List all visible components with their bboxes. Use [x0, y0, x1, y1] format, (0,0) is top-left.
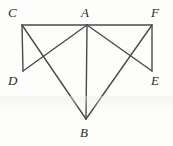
- segment-CD: [22, 25, 23, 71]
- vertex-label-A: A: [81, 6, 89, 19]
- geometry-figure: C A F D E B: [0, 0, 173, 146]
- vertex-label-C: C: [8, 6, 17, 19]
- segment-AE: [87, 25, 152, 71]
- segment-AB: [86, 25, 87, 119]
- segments-group: [22, 25, 152, 119]
- vertex-label-D: D: [8, 74, 17, 87]
- vertex-label-F: F: [151, 6, 159, 19]
- segment-DA: [23, 25, 87, 71]
- vertex-label-B: B: [80, 126, 88, 139]
- segment-FB: [86, 25, 152, 119]
- vertex-label-E: E: [151, 74, 159, 87]
- segment-CB: [22, 25, 86, 119]
